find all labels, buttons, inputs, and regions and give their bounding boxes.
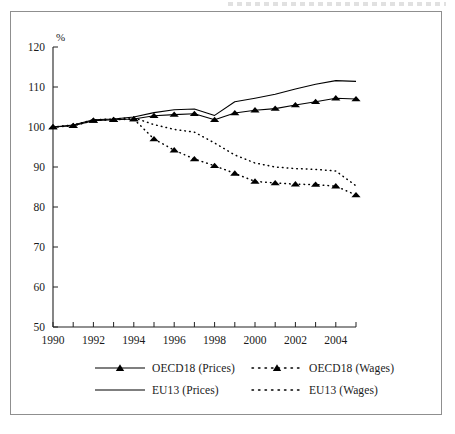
legend-label-eu13-wages: EU13 (Wages) (309, 384, 378, 396)
legend-item-eu13-wages[interactable]: EU13 (Wages) (250, 380, 378, 399)
chart-page: % 50607080901001101201990199219941996199… (0, 0, 455, 434)
legend-swatch-solid (93, 384, 147, 396)
svg-text:80: 80 (34, 201, 46, 213)
legend-label-oecd18-prices: OECD18 (Prices) (152, 362, 235, 374)
svg-text:50: 50 (34, 321, 46, 333)
svg-text:120: 120 (28, 41, 46, 53)
svg-text:90: 90 (34, 161, 46, 173)
legend-item-oecd18-prices[interactable]: OECD18 (Prices) (93, 358, 235, 377)
legend-item-oecd18-wages[interactable]: OECD18 (Wages) (250, 358, 394, 377)
svg-text:1998: 1998 (203, 334, 226, 346)
legend-swatch-solid-marker (93, 362, 147, 374)
svg-text:1996: 1996 (163, 334, 186, 346)
legend-label-eu13-prices: EU13 (Prices) (152, 384, 219, 396)
svg-text:2004: 2004 (324, 334, 347, 346)
svg-text:100: 100 (28, 121, 46, 133)
svg-text:1990: 1990 (42, 334, 65, 346)
svg-text:1994: 1994 (122, 334, 145, 346)
svg-text:2000: 2000 (244, 334, 267, 346)
legend-item-eu13-prices[interactable]: EU13 (Prices) (93, 380, 219, 399)
legend-label-oecd18-wages: OECD18 (Wages) (309, 362, 394, 374)
svg-text:60: 60 (34, 281, 46, 293)
svg-text:2002: 2002 (284, 334, 307, 346)
svg-text:70: 70 (34, 241, 46, 253)
svg-text:1992: 1992 (82, 334, 105, 346)
svg-text:110: 110 (28, 81, 45, 93)
chart-legend: OECD18 (Prices) OECD18 (Wages) EU13 (Pri… (55, 358, 385, 404)
legend-swatch-dotted (250, 384, 304, 396)
legend-swatch-dotted-marker (250, 362, 304, 374)
